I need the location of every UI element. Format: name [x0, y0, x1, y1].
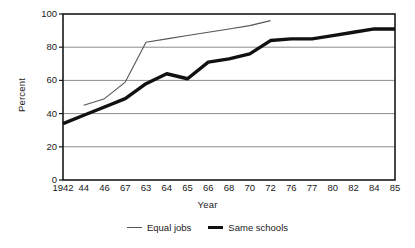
- x-tick-label: 46: [99, 183, 110, 193]
- x-tick-label: 80: [327, 183, 338, 193]
- x-tick-label: 70: [244, 183, 255, 193]
- x-axis-tick-labels: 194244466763646566687072767780828485: [0, 0, 415, 248]
- x-tick-label: 72: [265, 183, 276, 193]
- y-axis-title-wrap: Percent: [14, 60, 28, 130]
- x-tick-label: 82: [348, 183, 359, 193]
- x-tick-label: 77: [307, 183, 318, 193]
- x-tick-label: 63: [141, 183, 152, 193]
- legend-label: Equal jobs: [147, 222, 191, 233]
- x-tick-label: 67: [120, 183, 131, 193]
- chart-container: 100 80 60 40 20 0 1942444667636465666870…: [0, 0, 415, 248]
- x-tick-label: 66: [203, 183, 214, 193]
- x-axis-title: Year: [0, 199, 415, 210]
- line-swatch-icon: [208, 226, 223, 229]
- x-tick-label: 64: [161, 183, 172, 193]
- chart-legend: Equal jobs Same schools: [0, 222, 415, 233]
- x-tick-label: 76: [286, 183, 297, 193]
- x-tick-label: 84: [369, 183, 380, 193]
- x-tick-label: 44: [78, 183, 89, 193]
- legend-item-equal-jobs: Equal jobs: [127, 222, 191, 233]
- legend-label: Same schools: [228, 222, 288, 233]
- x-tick-label: 1942: [52, 183, 73, 193]
- line-swatch-icon: [127, 227, 142, 228]
- legend-item-same-schools: Same schools: [208, 222, 288, 233]
- x-tick-label: 65: [182, 183, 193, 193]
- x-tick-label: 68: [224, 183, 235, 193]
- x-tick-label: 85: [390, 183, 401, 193]
- y-axis-title: Percent: [16, 78, 27, 112]
